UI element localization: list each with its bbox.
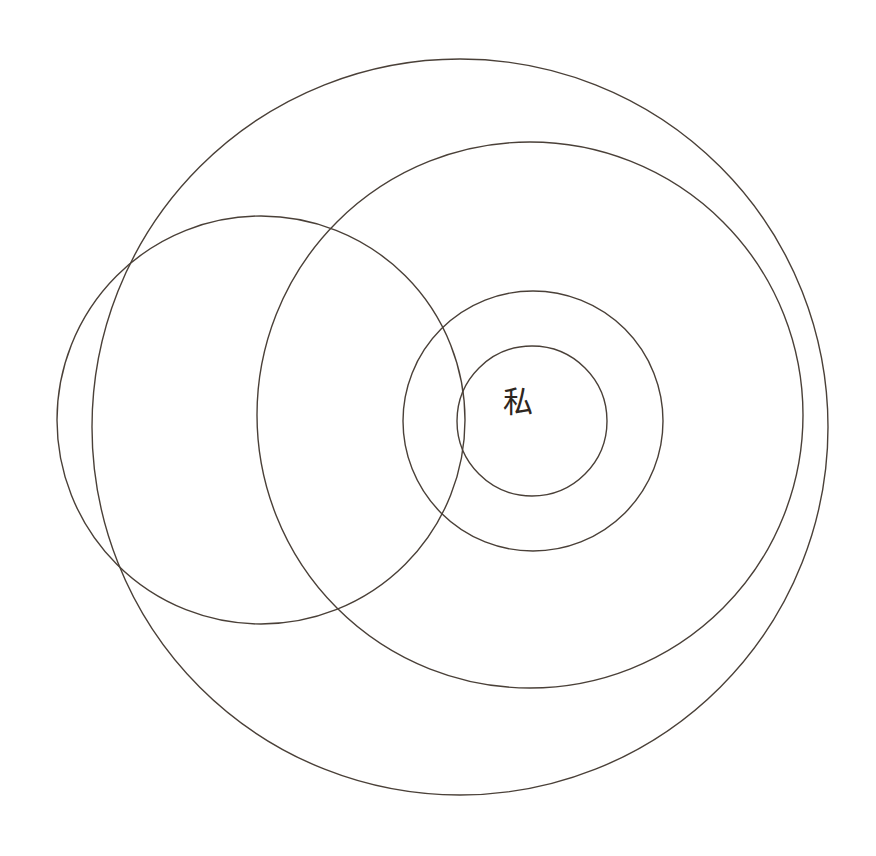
concentric-circles-diagram: 私	[0, 0, 876, 856]
diagram-background	[0, 0, 876, 856]
diagram-canvas: 私	[0, 0, 876, 856]
center-kanji-label: 私	[503, 384, 533, 419]
